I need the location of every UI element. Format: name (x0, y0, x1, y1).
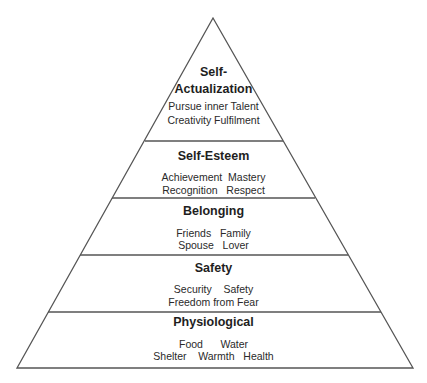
layer-title: Belonging (0, 205, 427, 218)
layer-items: Achievement Mastery (0, 172, 427, 183)
layer-title: Safety (0, 262, 427, 275)
layer-items: Friends Family (0, 228, 427, 239)
layer-items: Pursue inner Talent (0, 101, 427, 112)
layer-items: Recognition Respect (0, 185, 427, 196)
layer-items: Creativity Fulfilment (0, 115, 427, 126)
layer-items: Spouse Lover (0, 240, 427, 251)
layer-items: Food Water (0, 339, 427, 350)
layer-title: Self-Esteem (0, 150, 427, 163)
layer-title: Self- (0, 66, 427, 79)
layer-items: Shelter Warmth Health (0, 351, 427, 362)
layer-items: Freedom from Fear (0, 297, 427, 308)
layer-items: Security Safety (0, 284, 427, 295)
layer-title: Actualization (0, 83, 427, 96)
layer-title: Physiological (0, 316, 427, 329)
